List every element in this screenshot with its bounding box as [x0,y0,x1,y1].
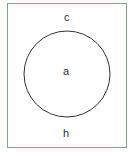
set-label: a [63,66,69,77]
universe-label: c [64,12,70,23]
outside-label: h [63,128,69,139]
